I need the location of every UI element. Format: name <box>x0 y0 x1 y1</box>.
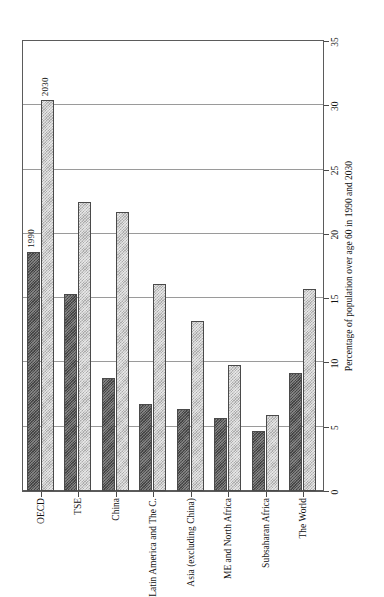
value-tick-30 <box>324 105 329 106</box>
value-tick-20 <box>324 234 329 235</box>
category-tick <box>228 492 229 497</box>
bar-1990-latin-america-and-the-c <box>139 404 152 491</box>
bar-1990-china <box>102 378 115 491</box>
category-tick <box>266 492 267 497</box>
value-tick-0 <box>324 491 329 492</box>
category-tick <box>116 492 117 497</box>
value-tick-label-20: 20 <box>330 230 340 240</box>
category-label: China <box>111 498 121 521</box>
value-tick-25 <box>324 170 329 171</box>
bar-2030-china <box>116 212 129 491</box>
category-label: Latin America and The C. <box>148 498 158 597</box>
bar-2030-oecd <box>41 100 54 491</box>
series-label-1990: 1990 <box>26 229 36 248</box>
value-tick-label-35: 35 <box>330 37 340 47</box>
bar-1990-subsaharan-africa <box>252 431 265 491</box>
category-label: OECD <box>36 498 46 524</box>
category-label: The World <box>298 498 308 538</box>
bar-group <box>177 41 207 491</box>
bar-group <box>289 41 319 491</box>
category-tick <box>303 492 304 497</box>
value-tick-label-0: 0 <box>330 490 340 495</box>
bar-1990-tse <box>64 294 77 491</box>
bar-group <box>139 41 169 491</box>
bar-group <box>102 41 132 491</box>
category-axis: OECDTSEChinaLatin America and The C.Asia… <box>22 492 324 590</box>
value-axis-title: Percentage of population over age 60 in … <box>344 40 354 492</box>
bar-2030-the-world <box>303 289 316 491</box>
category-label: ME and North Africa <box>223 498 233 579</box>
value-tick-label-25: 25 <box>330 166 340 176</box>
bar-1990-asia-excluding-china <box>177 409 190 491</box>
value-tick-35 <box>324 41 329 42</box>
category-label: Subsaharan Africa <box>261 498 271 568</box>
bar-1990-the-world <box>289 373 302 491</box>
category-tick <box>41 492 42 497</box>
bar-2030-subsaharan-africa <box>266 415 279 491</box>
value-tick-5 <box>324 427 329 428</box>
bar-2030-latin-america-and-the-c <box>153 284 166 491</box>
category-tick <box>191 492 192 497</box>
value-tick-15 <box>324 298 329 299</box>
bar-group <box>64 41 94 491</box>
value-tick-label-15: 15 <box>330 294 340 304</box>
bar-2030-me-and-north-africa <box>228 365 241 491</box>
series-label-2030: 2030 <box>40 77 50 96</box>
bar-group <box>214 41 244 491</box>
bar-1990-me-and-north-africa <box>214 418 227 491</box>
value-tick-label-5: 5 <box>330 425 340 430</box>
bar-group <box>252 41 282 491</box>
category-label: TSE <box>73 498 83 515</box>
category-label: Asia (excluding China) <box>186 498 196 587</box>
category-tick <box>78 492 79 497</box>
bars-layer <box>23 41 323 491</box>
bar-group <box>27 41 57 491</box>
plot-area: 1990 2030 <box>22 40 324 492</box>
bar-2030-tse <box>78 202 91 491</box>
value-tick-10 <box>324 362 329 363</box>
category-tick <box>153 492 154 497</box>
bar-2030-asia-excluding-china <box>191 321 204 491</box>
value-axis: 05101520253035 <box>324 40 346 492</box>
value-tick-label-30: 30 <box>330 102 340 112</box>
bar-1990-oecd <box>27 252 40 491</box>
value-tick-label-10: 10 <box>330 359 340 369</box>
